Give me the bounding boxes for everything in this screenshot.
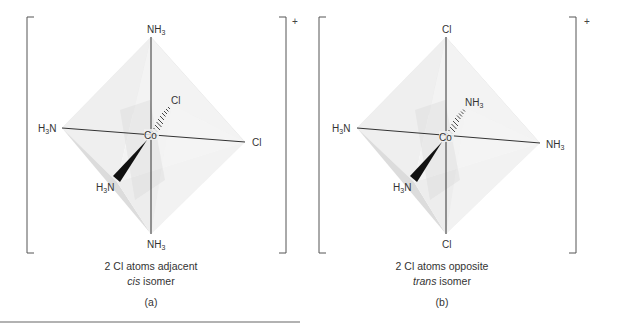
ligand-front: H3N [393,182,411,194]
caption-b-line1: 2 Cl atoms opposite [312,259,572,274]
ligand-right: Cl [252,137,261,148]
ligand-back: Cl [171,95,180,106]
ligand-top: Cl [442,24,451,35]
ligand-right: NH3 [546,139,564,151]
caption-a-line1: 2 Cl atoms adjacent [21,259,281,274]
panel-label-a: (a) [21,295,281,310]
left-bracket [319,17,326,253]
caption-b-line2: trans isomer [312,274,572,289]
left-bracket [27,17,34,253]
panel-label-b: (b) [312,295,572,310]
ligand-left: H3N [332,123,350,135]
caption-b-italic: trans [413,275,436,287]
center-atom: Co [439,132,452,143]
ligand-top: NH3 [147,24,165,36]
caption-b: 2 Cl atoms opposite trans isomer (b) [312,259,572,310]
charge-sign: + [584,16,590,27]
ligand-bottom: NH3 [147,239,165,251]
ligand-front: H3N [96,182,114,194]
center-atom: Co [144,130,157,141]
caption-a-line2: cis isomer [21,274,281,289]
right-bracket [569,17,576,253]
caption-a-rest: isomer [140,275,174,287]
caption-a: 2 Cl atoms adjacent cis isomer (a) [21,259,281,310]
charge-sign: + [292,16,298,27]
caption-a-italic: cis [127,275,140,287]
ligand-left: H3N [38,123,56,135]
right-bracket [279,17,286,253]
caption-b-rest: isomer [436,275,470,287]
ligand-bottom: Cl [442,239,451,250]
